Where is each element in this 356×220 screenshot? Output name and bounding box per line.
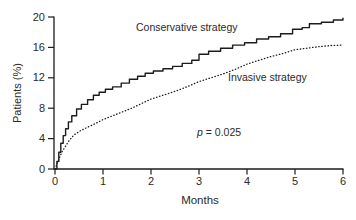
x-tick-label: 2: [139, 175, 163, 188]
x-tick-label: 4: [235, 175, 259, 188]
x-tick-label: 5: [283, 175, 307, 188]
y-tick-label: 0: [19, 163, 45, 176]
p-value-text: = 0.025: [203, 126, 241, 138]
x-tick-label: 3: [187, 175, 211, 188]
invasive-curve: [55, 45, 343, 169]
p-value-annotation: p = 0.025: [197, 126, 241, 138]
x-axis-title: Months: [160, 194, 240, 206]
survival-curve-figure: 0481216200123456 Patients (%) Months Con…: [0, 0, 356, 220]
axes: [54, 17, 344, 170]
x-tick-label: 0: [43, 175, 67, 188]
conservative-strategy-label: Conservative strategy: [136, 21, 238, 33]
y-axis-title: Patients (%): [10, 33, 24, 153]
x-tick-label: 1: [91, 175, 115, 188]
invasive-strategy-label: Invasive strategy: [228, 71, 307, 83]
y-tick-label: 20: [19, 11, 45, 24]
conservative-curve: [55, 18, 343, 169]
x-tick-label: 6: [331, 175, 355, 188]
